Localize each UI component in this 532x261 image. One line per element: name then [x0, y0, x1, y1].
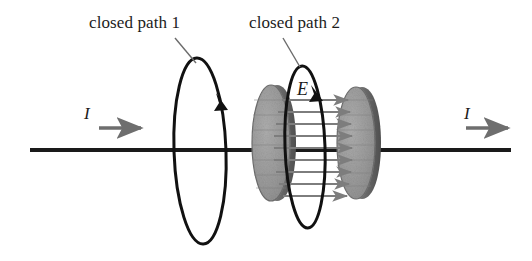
- closed-path-1-direction-arrowhead: [214, 93, 228, 111]
- leader-line-closed-path-1: [175, 38, 196, 63]
- plate-right-face: [337, 87, 375, 199]
- label-electric-field: E: [297, 79, 308, 100]
- label-closed-path-2: closed path 2: [249, 13, 340, 33]
- label-current-left: I: [84, 104, 90, 124]
- capacitor-plate-right: [337, 87, 381, 199]
- physics-diagram-figure: closed path 1 closed path 2 I I E: [0, 0, 532, 261]
- leader-line-closed-path-2: [283, 38, 300, 67]
- label-closed-path-1: closed path 1: [89, 13, 180, 33]
- diagram-canvas: [0, 0, 532, 261]
- label-current-right: I: [464, 104, 470, 124]
